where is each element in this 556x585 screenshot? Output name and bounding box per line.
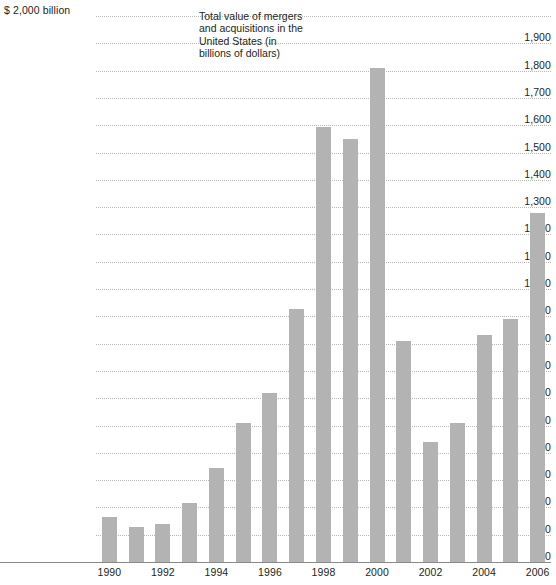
x-axis-line [0, 562, 551, 563]
x-axis-tick-label: 1994 [191, 566, 241, 579]
x-axis-tick-label: 1992 [138, 566, 188, 579]
bar-2002 [423, 442, 438, 562]
x-axis-tick-label: 2000 [352, 566, 402, 579]
gridline [96, 98, 551, 99]
plot-area [96, 16, 551, 562]
bar-1991 [129, 527, 144, 562]
bar-1995 [236, 423, 251, 562]
bar-2000 [370, 68, 385, 562]
bar-1999 [343, 139, 358, 562]
bar-1990 [102, 517, 117, 562]
bar-2003 [450, 423, 465, 562]
gridline [96, 71, 551, 72]
bar-1997 [289, 309, 304, 562]
bar-1993 [182, 503, 197, 562]
x-axis-tick-label: 1998 [299, 566, 349, 579]
gridline [96, 16, 551, 17]
x-axis-tick-label: 2004 [459, 566, 509, 579]
bar-2006 [530, 213, 545, 562]
bar-1996 [262, 393, 277, 562]
bar-1998 [316, 127, 331, 562]
bar-1994 [209, 468, 224, 562]
chart-title-note: Total value of mergers and acquisitions … [199, 10, 311, 60]
bar-2005 [503, 319, 518, 562]
bar-1992 [155, 524, 170, 562]
x-axis-tick-label: 1996 [245, 566, 295, 579]
gridline [96, 43, 551, 44]
x-axis-tick-label: 2002 [406, 566, 456, 579]
y-axis-tick-label: $ 2,000 billion [4, 5, 124, 16]
x-axis-tick-label: 2006 [513, 566, 556, 579]
x-axis-tick-label: 1990 [84, 566, 134, 579]
bar-2004 [477, 335, 492, 562]
bar-2001 [396, 341, 411, 562]
